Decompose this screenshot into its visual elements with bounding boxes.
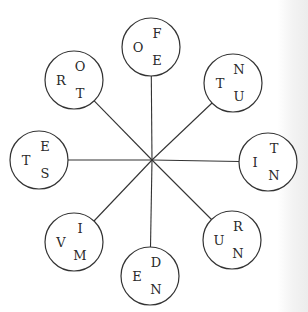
- letter-wheel-diagram: FOENTUTINRUNDENIVMETSORT: [0, 0, 308, 312]
- letter-top-right: T: [270, 141, 279, 156]
- letter-bottom-right: T: [76, 86, 85, 101]
- node-top-right: NTU: [204, 54, 262, 112]
- node-bottom-left: IVM: [45, 213, 103, 271]
- letter-left: E: [132, 269, 142, 284]
- letter-top-right: N: [233, 62, 244, 77]
- letter-bottom-right: N: [150, 282, 161, 297]
- letter-bottom-right: U: [234, 89, 245, 104]
- spoke-top: [151, 76, 152, 160]
- letter-bottom-right: N: [232, 246, 243, 261]
- node-right: TIN: [239, 133, 297, 191]
- spoke-bottom-right: [152, 160, 212, 220]
- node-bottom-right: RUN: [203, 211, 261, 269]
- letter-bottom-right: S: [41, 166, 50, 181]
- node-top: FOE: [122, 18, 180, 76]
- letter-top-right: R: [233, 219, 244, 234]
- letter-top-right: O: [75, 59, 86, 74]
- letter-left: U: [214, 233, 225, 248]
- letter-left: I: [252, 155, 257, 170]
- letter-left: R: [56, 73, 67, 88]
- letter-top-right: E: [40, 139, 50, 154]
- letter-top-right: I: [77, 221, 82, 236]
- letter-left: T: [216, 76, 225, 91]
- spoke-right: [152, 160, 239, 162]
- spoke-top-right: [152, 103, 212, 160]
- letter-left: T: [22, 153, 31, 168]
- letter-bottom-right: E: [152, 53, 162, 68]
- page: FOENTUTINRUNDENIVMETSORT: [0, 0, 308, 312]
- letter-top-right: F: [152, 26, 161, 41]
- spoke-bottom: [151, 160, 153, 247]
- letter-bottom-right: N: [268, 168, 279, 183]
- node-circle: [122, 18, 180, 76]
- spoke-bottom-left: [94, 160, 152, 221]
- letter-top-right: D: [151, 255, 161, 270]
- node-circle: [10, 131, 68, 189]
- spoke-top-left: [94, 101, 152, 160]
- letter-bottom-right: M: [73, 248, 86, 263]
- node-top-left: ORT: [45, 51, 103, 109]
- letter-left: O: [133, 40, 144, 55]
- letter-left: V: [55, 235, 66, 250]
- node-bottom: DEN: [121, 247, 179, 305]
- node-left: ETS: [10, 131, 68, 189]
